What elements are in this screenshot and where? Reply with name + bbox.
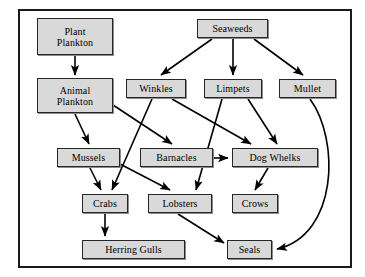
node-animal_plankton[interactable]: Animal Plankton — [37, 78, 113, 113]
node-dog_whelks[interactable]: Dog Whelks — [232, 148, 318, 167]
node-mullet[interactable]: Mullet — [279, 79, 336, 98]
node-seals[interactable]: Seals — [227, 240, 272, 259]
node-lobsters[interactable]: Lobsters — [148, 194, 212, 213]
node-mussels[interactable]: Mussels — [57, 148, 120, 167]
food-web-diagram: Plant PlanktonSeaweedsAnimal PlanktonWin… — [0, 0, 365, 277]
node-winkles[interactable]: Winkles — [126, 79, 186, 98]
node-plant_plankton[interactable]: Plant Plankton — [37, 18, 113, 55]
node-crows[interactable]: Crows — [232, 194, 278, 213]
node-seaweeds[interactable]: Seaweeds — [197, 19, 268, 38]
node-herring_gulls[interactable]: Herring Gulls — [82, 240, 185, 259]
node-limpets[interactable]: Limpets — [204, 79, 262, 98]
node-barnacles[interactable]: Barnacles — [140, 148, 213, 167]
node-crabs[interactable]: Crabs — [82, 194, 128, 213]
